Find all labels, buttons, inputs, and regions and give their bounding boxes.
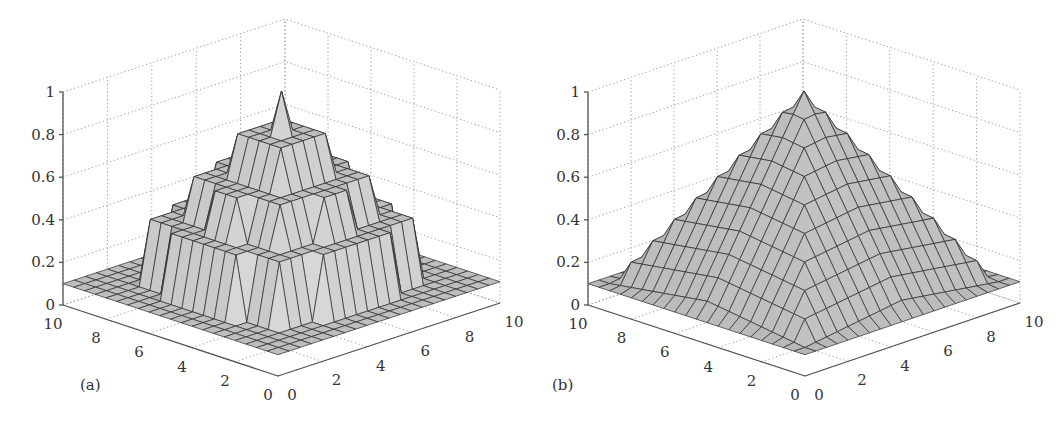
y-tick-label: 0: [263, 386, 273, 404]
y-tick-label: 2: [747, 372, 757, 390]
z-tick-label: 0.6: [556, 168, 580, 186]
x-tick-label: 8: [986, 328, 996, 346]
z-tick-label: 0: [570, 296, 580, 314]
panel-label-a: (a): [80, 376, 101, 394]
x-tick-label: 6: [943, 342, 953, 360]
x-tick-label: 4: [900, 357, 910, 375]
x-tick-label: 6: [420, 342, 430, 360]
z-tick-label: 0.8: [31, 126, 55, 144]
y-tick-label: 4: [177, 358, 187, 376]
x-tick-label: 0: [287, 386, 297, 404]
x-tick-label: 0: [814, 386, 824, 404]
surface-plot-a: 00.20.40.60.8102468100246810: [31, 19, 523, 404]
y-tick-label: 2: [220, 372, 230, 390]
panel-label-b: (b): [552, 376, 573, 394]
y-tick-label: 8: [617, 329, 627, 347]
z-tick-label: 0.2: [31, 253, 55, 271]
z-tick-label: 0.8: [556, 126, 580, 144]
figure-canvas: 00.20.40.60.8102468100246810 00.20.40.60…: [0, 0, 1063, 421]
z-tick-label: 1: [570, 83, 580, 101]
x-tick-label: 2: [857, 371, 867, 389]
y-tick-label: 6: [134, 343, 144, 361]
x-tick-label: 10: [504, 313, 523, 331]
z-tick-label: 0: [45, 296, 55, 314]
y-tick-label: 4: [703, 358, 713, 376]
z-tick-label: 0.6: [31, 168, 55, 186]
z-tick-label: 0.4: [556, 211, 580, 229]
surface: [588, 91, 1020, 355]
z-tick-label: 1: [45, 83, 55, 101]
z-tick-label: 0.4: [31, 211, 55, 229]
surface-plot-b: 00.20.40.60.8102468100246810: [556, 19, 1043, 404]
x-tick-label: 2: [332, 371, 342, 389]
x-tick-label: 4: [376, 357, 386, 375]
y-tick-label: 8: [91, 329, 101, 347]
z-tick-label: 0.2: [556, 253, 580, 271]
y-tick-label: 0: [790, 386, 800, 404]
surface: [63, 91, 500, 355]
y-tick-label: 10: [43, 315, 62, 333]
y-tick-label: 6: [660, 343, 670, 361]
x-tick-label: 10: [1024, 313, 1043, 331]
y-tick-label: 10: [568, 315, 587, 333]
x-tick-label: 8: [465, 328, 475, 346]
